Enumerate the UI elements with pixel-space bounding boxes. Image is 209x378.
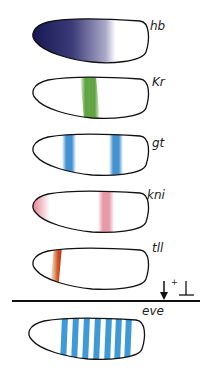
gene-label-tll: tll — [152, 242, 163, 254]
repression-bar-icon — [179, 281, 194, 295]
gene-label-eve: eve — [142, 305, 164, 317]
embryo-hb — [28, 15, 153, 67]
gene-label-kr: Kr — [152, 76, 165, 88]
embryo-kni — [30, 190, 148, 235]
plus-sign: + — [171, 279, 178, 287]
gene-label-gt: gt — [152, 137, 164, 149]
embryo-eve — [29, 316, 145, 364]
embryo-tll — [33, 246, 149, 292]
gene-label-kni: kni — [147, 189, 165, 201]
embryo-kr — [33, 76, 149, 120]
embryo-gt — [33, 133, 149, 178]
gene-label-hb: hb — [150, 20, 165, 32]
activation-arrow-icon — [160, 281, 168, 300]
gene-expression-diagram — [0, 0, 209, 378]
